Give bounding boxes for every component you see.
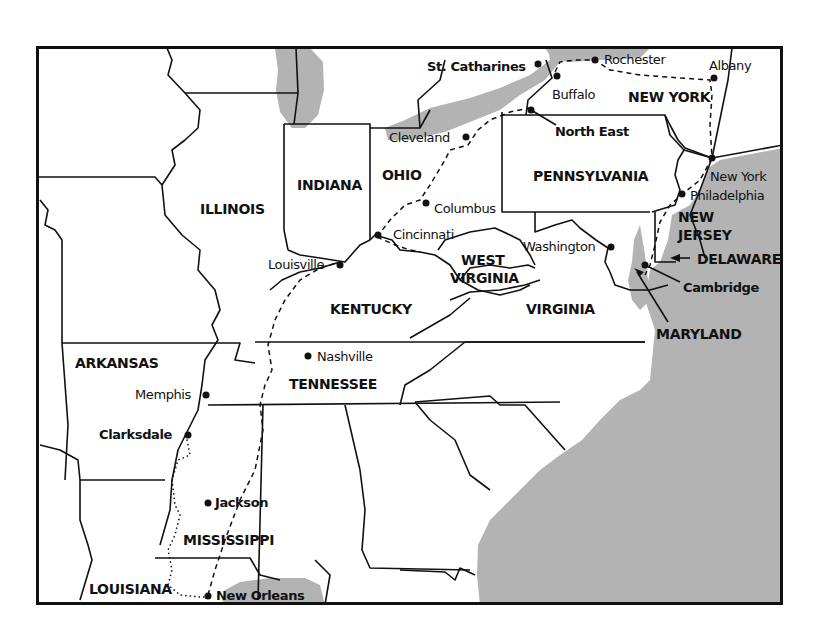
state-label-new-jersey-1: NEW <box>678 209 714 225</box>
city-label-new-orleans: New Orleans <box>216 588 305 603</box>
state-label-indiana: INDIANA <box>297 177 363 193</box>
state-label-tennessee: TENNESSEE <box>289 376 377 392</box>
state-label-west-virginia-2: VIRGINIA <box>450 270 519 286</box>
state-label-ohio: OHIO <box>382 167 422 183</box>
city-label-st-catharines: St. Catharines <box>427 59 526 74</box>
map-canvas: ILLINOIS INDIANA OHIO PENNSYLVANIA NEW Y… <box>36 46 783 605</box>
city-label-new-york: New York <box>710 169 767 184</box>
state-label-new-jersey-2: JERSEY <box>677 227 733 243</box>
state-label-arkansas: ARKANSAS <box>75 355 159 371</box>
city-label-philadelphia: Philadelphia <box>690 188 764 203</box>
city-label-buffalo: Buffalo <box>552 87 595 102</box>
city-label-cincinnati: Cincinnati <box>393 227 454 242</box>
city-label-north-east: North East <box>555 124 629 139</box>
city-label-clarksdale: Clarksdale <box>99 427 172 442</box>
city-label-nashville: Nashville <box>317 349 373 364</box>
city-label-columbus: Columbus <box>434 201 496 216</box>
city-label-louisville: Louisville <box>268 257 325 272</box>
state-label-maryland: MARYLAND <box>656 326 742 342</box>
state-label-louisiana: LOUISIANA <box>89 581 172 597</box>
city-label-albany: Albany <box>709 58 752 73</box>
city-label-cambridge: Cambridge <box>683 280 759 295</box>
state-label-new-york: NEW YORK <box>628 89 712 105</box>
city-label-jackson: Jackson <box>214 495 268 510</box>
state-label-illinois: ILLINOIS <box>200 201 265 217</box>
state-label-delaware: DELAWARE <box>697 251 781 267</box>
state-label-west-virginia-1: WEST <box>461 252 505 268</box>
city-label-rochester: Rochester <box>604 52 666 67</box>
state-label-kentucky: KENTUCKY <box>330 301 413 317</box>
state-label-mississippi: MISSISSIPPI <box>183 532 274 548</box>
city-label-cleveland: Cleveland <box>389 130 450 145</box>
city-label-memphis: Memphis <box>135 387 192 402</box>
city-label-washington: Washington <box>523 239 596 254</box>
state-label-virginia: VIRGINIA <box>526 301 595 317</box>
map-frame: ILLINOIS INDIANA OHIO PENNSYLVANIA NEW Y… <box>36 46 783 605</box>
state-label-pennsylvania: PENNSYLVANIA <box>533 168 649 184</box>
